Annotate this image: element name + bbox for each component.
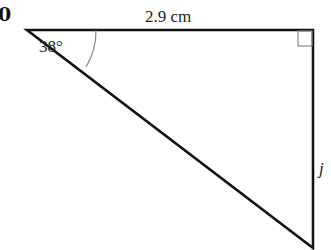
right-angle-marker — [298, 31, 312, 46]
triangle-diagram: 0 38° 2.9 cm j — [0, 0, 331, 250]
triangle — [27, 30, 313, 248]
angle-arc — [86, 30, 96, 67]
top-side-label: 2.9 cm — [145, 7, 191, 26]
right-side-label: j — [317, 159, 324, 178]
question-number: 0 — [0, 3, 11, 25]
angle-label: 38° — [39, 37, 63, 56]
